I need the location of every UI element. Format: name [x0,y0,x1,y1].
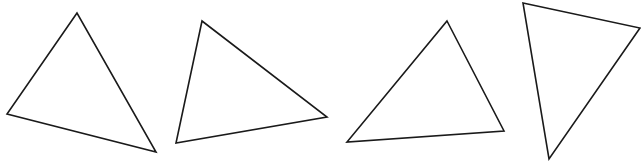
triangle-3 [347,21,504,142]
triangle-4 [523,3,640,159]
triangles-canvas [0,0,641,165]
triangle-2 [176,21,327,143]
triangles-figure [0,0,641,165]
triangle-1 [7,13,156,152]
